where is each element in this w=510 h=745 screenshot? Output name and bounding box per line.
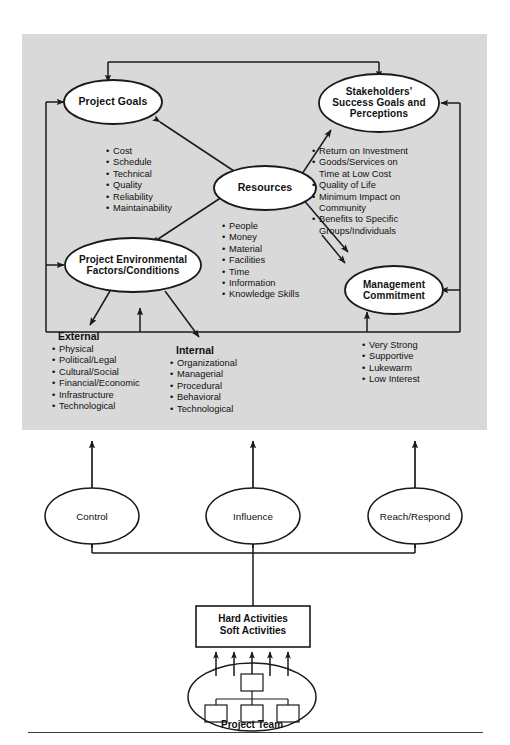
external-factor-item-label: Political/Legal [59,355,116,365]
arrow-stakeholders-management [322,235,345,263]
node-label-project-team[interactable]: Project Team [200,719,304,730]
stakeholder-goal-item-label: Goods/Services on [319,157,398,167]
bullet-icon: • [312,180,319,191]
org-node-root [241,674,263,691]
ellipse-management-commitment [345,266,443,314]
project-goal-item: •Maintainability [106,203,172,214]
bullet-icon: • [106,169,113,180]
resource-item-label: Time [229,267,249,277]
stakeholder-goal-item: •Goods/Services on [312,157,408,168]
stakeholder-goal-item: •Benefits to Specific [312,214,408,225]
external-factor-item: •Political/Legal [52,355,140,366]
project-goal-item-label: Technical [113,169,152,179]
heading-external: External [58,330,99,342]
management-level-item: •Supportive [362,351,420,362]
project-goal-item-label: Quality [113,180,142,190]
internal-factor-item-label: Technological [177,404,233,414]
project-goal-item: •Quality [106,180,172,191]
internal-factor-item: •Technological [170,404,237,415]
external-factor-item: •Technological [52,401,140,412]
project-goal-item: •Cost [106,146,172,157]
resource-item: •Information [222,278,299,289]
bullet-icon: • [222,267,229,278]
bullet-icon: • [52,390,59,401]
list-internal-factors: •Organizational•Managerial•Procedural•Be… [170,358,237,415]
external-factor-item-label: Infrastructure [59,390,114,400]
bullet-icon: • [52,344,59,355]
resource-item: •Money [222,232,299,243]
heading-internal: Internal [176,344,214,356]
project-goal-item: •Schedule [106,157,172,168]
bullet-icon: • [222,244,229,255]
bullet-icon: • [312,214,319,225]
internal-factor-item: •Procedural [170,381,237,392]
resource-item: •Material [222,244,299,255]
internal-factor-item-label: Procedural [177,381,222,391]
footer-divider [28,732,483,733]
project-goal-item-label: Maintainability [113,203,172,213]
management-level-item-label: Lukewarm [369,363,412,373]
project-goal-item-label: Schedule [113,157,152,167]
stakeholder-goal-item: •Minimum Impact on [312,192,408,203]
ellipse-project-env [65,238,201,292]
stakeholder-goal-item-continuation: Time at Low Cost [312,169,408,180]
internal-factor-item-label: Organizational [177,358,237,368]
external-factor-item-label: Technological [59,401,115,411]
management-level-item: •Very Strong [362,340,420,351]
bullet-icon: • [222,221,229,232]
bullet-icon: • [362,374,369,385]
bullet-icon: • [170,392,177,403]
management-level-item: •Lukewarm [362,363,420,374]
resource-item-label: Facilities [229,255,265,265]
node-label-influence[interactable]: Influence [206,511,300,522]
bullet-icon: • [52,401,59,412]
internal-factor-item: •Behavioral [170,392,237,403]
list-resources: •People•Money•Material•Facilities•Time•I… [222,221,299,301]
bullet-icon: • [312,192,319,203]
bullet-icon: • [362,363,369,374]
resource-item-label: Information [229,278,276,288]
arrow-project-env-internal [165,291,199,337]
list-management-commitment: •Very Strong•Supportive•Lukewarm•Low Int… [362,340,420,386]
ellipse-project-goals [64,80,162,124]
list-project-goals: •Cost•Schedule•Technical•Quality•Reliabi… [106,146,172,214]
bullet-icon: • [312,146,319,157]
bullet-icon: • [222,232,229,243]
bullet-icon: • [52,355,59,366]
stakeholder-goal-item-continuation: Community [312,203,408,214]
management-level-item-label: Low Interest [369,374,420,384]
resource-item: •Facilities [222,255,299,266]
management-level-item-label: Very Strong [369,340,418,350]
stakeholder-goal-item: •Quality of Life [312,180,408,191]
node-label-control[interactable]: Control [45,511,139,522]
arrow-project-goals-resources [160,122,243,177]
external-factor-item: •Financial/Economic [52,378,140,389]
bullet-icon: • [106,203,113,214]
bullet-icon: • [222,278,229,289]
bullet-icon: • [312,157,319,168]
node-label-activities[interactable]: Hard Activities Soft Activities [196,613,310,637]
node-label-reach-respond[interactable]: Reach/Respond [363,511,467,522]
bullet-icon: • [52,378,59,389]
management-level-item: •Low Interest [362,374,420,385]
bullet-icon: • [106,157,113,168]
stakeholder-goal-item-continuation: Groups/Individuals [312,226,408,237]
activities-line-1: Hard Activities [196,613,310,625]
stakeholder-goal-item: •Return on Investment [312,146,408,157]
arrow-project-env-external [90,291,110,325]
bullet-icon: • [362,340,369,351]
bullet-icon: • [106,180,113,191]
resource-item: •People [222,221,299,232]
bullet-icon: • [106,146,113,157]
bullet-icon: • [52,367,59,378]
external-factor-item: •Physical [52,344,140,355]
project-goal-item-label: Cost [113,146,132,156]
external-factor-item-label: Physical [59,344,94,354]
project-goal-item: •Technical [106,169,172,180]
project-goal-item: •Reliability [106,192,172,203]
resource-item-label: People [229,221,258,231]
external-factor-item-label: Financial/Economic [59,378,140,388]
external-factor-item: •Cultural/Social [52,367,140,378]
stakeholder-goal-item-label: Quality of Life [319,180,376,190]
project-goal-item-label: Reliability [113,192,153,202]
